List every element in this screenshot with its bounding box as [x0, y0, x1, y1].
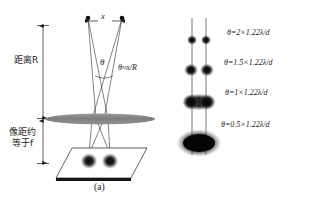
spot-pair-row-2 — [182, 93, 216, 110]
spot-pair-row-1 — [184, 63, 214, 76]
formula-row-3: θ=0.5×1.22λ/d — [221, 120, 269, 129]
label-angle-formula: θ≈x/R — [118, 63, 137, 72]
spot-pair-row-0 — [187, 35, 211, 45]
dimension-image-distance — [37, 121, 49, 164]
panel-a-graphics — [0, 0, 165, 206]
label-angle-theta: θ — [100, 57, 104, 67]
formula-row-2: θ=1×1.22λ/d — [225, 88, 267, 97]
lens-ellipse — [45, 114, 155, 125]
label-image-distance-line2: 等于f — [9, 138, 36, 149]
label-image-distance: 像距约 等于f — [9, 127, 36, 150]
angle-theta-arc — [95, 76, 113, 78]
panel-a: 距离R 像距约 等于f x θ θ≈x/R (a) — [0, 0, 165, 206]
label-image-distance-line1: 像距约 — [9, 127, 36, 138]
formula-row-0: θ=2×1.22λ/d — [227, 28, 269, 37]
ray-bundle — [88, 19, 122, 155]
spot-pair-row-3 — [176, 129, 222, 157]
label-separation-x: x — [101, 12, 105, 22]
detector-plane — [56, 148, 147, 181]
panel-b: θ=2×1.22λ/d θ=1.5×1.22λ/d θ=1×1.22λ/d θ=… — [165, 0, 311, 206]
source-points — [86, 16, 125, 21]
label-distance-R: 距离R — [14, 55, 38, 65]
dimension-distance-R — [37, 26, 49, 119]
formula-row-1: θ=1.5×1.22λ/d — [224, 58, 272, 67]
caption-panel-a: (a) — [94, 182, 105, 192]
figure-root: 距离R 像距约 等于f x θ θ≈x/R (a) — [0, 0, 311, 206]
